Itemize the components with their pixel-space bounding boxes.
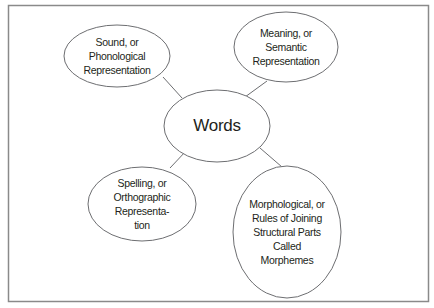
label-line: Rules of Joining [249, 211, 324, 225]
connector-sound [163, 77, 182, 98]
connector-meaning [245, 81, 267, 97]
label-line: tion [113, 218, 170, 232]
label-line: Words [193, 116, 240, 136]
label-line: Representa- [113, 204, 170, 218]
label-line: Phonological [83, 49, 150, 63]
label-line: Orthographic [113, 190, 170, 204]
label-line: Representation [83, 63, 150, 77]
connector-morphological [260, 148, 282, 167]
label-line: Called [249, 239, 324, 253]
label-line: Morphological, or [249, 197, 324, 211]
label-line: Spelling, or [113, 176, 170, 190]
node-morphological-label: Morphological, or Rules of Joining Struc… [249, 197, 324, 267]
diagram-canvas [0, 0, 434, 308]
node-meaning-label: Meaning, or Semantic Representation [252, 26, 319, 68]
label-line: Meaning, or [252, 26, 319, 40]
label-line: Morphemes [249, 253, 324, 267]
label-line: Representation [252, 54, 319, 68]
label-line: Semantic [252, 40, 319, 54]
label-line: Sound, or [83, 35, 150, 49]
center-words-label: Words [193, 116, 240, 136]
node-sound-label: Sound, or Phonological Representation [83, 35, 150, 77]
node-spelling-label: Spelling, or Orthographic Representa- ti… [113, 176, 170, 232]
label-line: Structural Parts [249, 225, 324, 239]
